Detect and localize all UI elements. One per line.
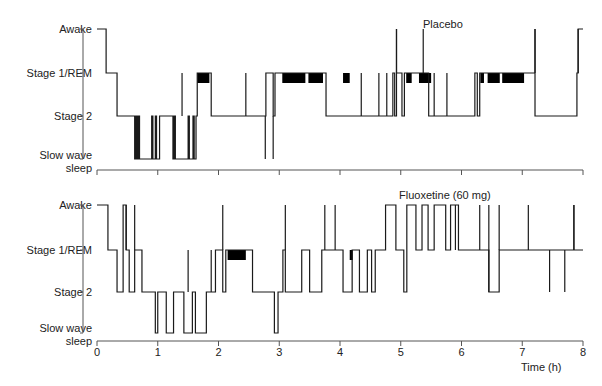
placebo-rem-block [480, 73, 484, 83]
placebo-rem-block [197, 73, 209, 83]
placebo-rem-block [308, 73, 323, 83]
placebo-rem-block [343, 73, 350, 83]
placebo-rem-block [419, 73, 431, 83]
placebo-rem-block [282, 73, 305, 83]
hypnogram-plot [0, 0, 602, 386]
fluoxetine-rem-block [228, 250, 246, 260]
placebo-hypnogram-line [97, 29, 583, 159]
placebo-rem-block [488, 73, 500, 83]
placebo-rem-block [502, 73, 524, 83]
placebo-rem-block [406, 73, 411, 83]
fluoxetine-hypnogram-line [97, 205, 583, 333]
